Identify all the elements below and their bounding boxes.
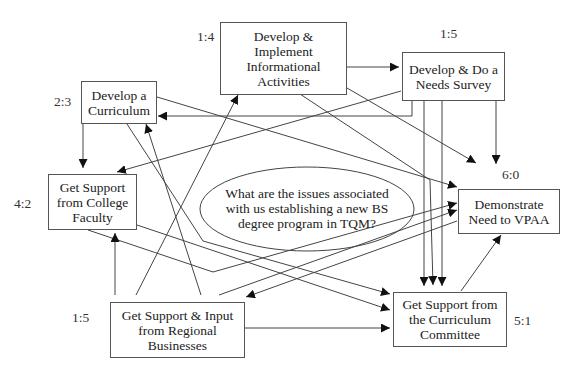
node-get-support-input-regional-businesses: Get Support & Input from Regional Busine… [110, 302, 245, 358]
score-informational: 1:4 [197, 29, 214, 45]
node-get-support-curriculum-committee: Get Support from the Curriculum Committe… [393, 292, 507, 347]
node-develop-a-curriculum: Develop a Curriculum [81, 81, 157, 124]
edge-needs-survey-to-faculty [117, 91, 401, 172]
node-get-support-college-faculty: Get Support from College Faculty [48, 174, 137, 230]
node-develop-do-needs-survey: Develop & Do a Needs Survey [402, 52, 505, 101]
score-vpaa: 6:0 [502, 167, 519, 183]
score-curriculum: 2:3 [54, 94, 71, 110]
node-develop-implement-informational-activities: Develop & Implement Informational Activi… [220, 22, 347, 95]
score-needs-survey: 1:5 [440, 26, 457, 42]
edge-committee-to-vpaa [461, 235, 501, 291]
score-faculty: 4:2 [14, 196, 31, 212]
score-committee: 5:1 [514, 313, 531, 329]
central-question: What are the issues associated with us e… [207, 186, 407, 231]
edge-businesses-to-curriculum [146, 124, 201, 295]
node-demonstrate-need-to-vpaa: Demonstrate Need to VPAA [458, 189, 560, 234]
edge-faculty-to-committee [137, 225, 390, 310]
score-businesses: 1:5 [72, 310, 89, 326]
